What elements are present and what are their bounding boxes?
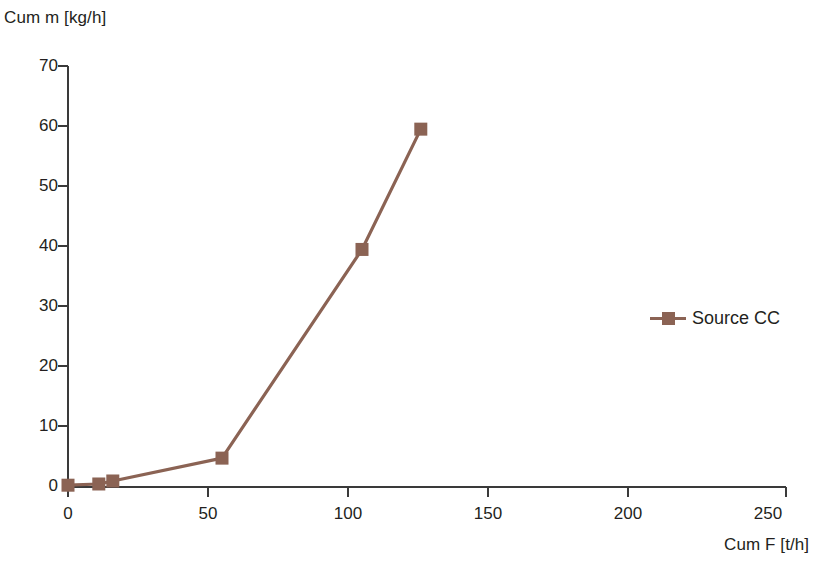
legend-label-source-cc: Source CC [692,308,780,329]
data-point-marker [92,477,105,490]
legend-marker-source-cc [650,311,686,325]
y-tick-marks [58,66,68,426]
chart-container: Cum m [kg/h] Cum F [t/h] 70 60 50 40 30 … [0,0,832,564]
data-point-marker [106,474,119,487]
data-point-marker [356,243,369,256]
chart-legend: Source CC [650,305,780,331]
series-source-cc [62,123,428,492]
data-point-marker [414,123,427,136]
series-line [68,129,421,485]
plot-area [0,0,832,564]
data-point-marker [216,452,229,465]
data-point-marker [62,479,75,492]
x-tick-marks [68,487,786,497]
